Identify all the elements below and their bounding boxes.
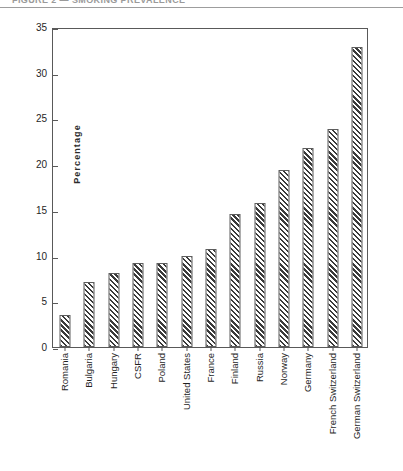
bar-slot <box>126 29 150 347</box>
x-axis-tick-label: Poland <box>149 353 173 468</box>
y-axis-tick-label: 15 <box>36 205 47 216</box>
x-axis-tick-mark <box>113 347 114 351</box>
x-axis-tick-mark <box>210 347 211 351</box>
bar[interactable] <box>60 315 71 347</box>
y-axis-tick-label: 30 <box>36 68 47 79</box>
x-axis-tick-label: French Switzerland <box>319 353 343 468</box>
bar-slot <box>223 29 247 347</box>
bar[interactable] <box>84 282 95 347</box>
x-axis-tick-label-text: Germany <box>302 353 313 392</box>
x-axis-tick-mark <box>259 347 260 351</box>
x-axis-tick-label-text: France <box>204 353 215 383</box>
x-axis-tick-label-text: Romania <box>59 353 70 391</box>
bar-slot <box>53 29 77 347</box>
x-axis-tick-mark <box>283 347 284 351</box>
x-axis-tick-label-text: Russia <box>253 353 264 382</box>
bar-slot <box>320 29 344 347</box>
bar-slot <box>175 29 199 347</box>
plot-area: Percentage 35302520151050 <box>52 28 368 348</box>
x-axis-tick-mark <box>162 347 163 351</box>
bar[interactable] <box>327 129 338 348</box>
bar-chart: Percentage 35302520151050 RomaniaBulgari… <box>0 0 403 471</box>
bar[interactable] <box>181 256 192 347</box>
x-axis-tick-label: Russia <box>246 353 270 468</box>
x-axis-tick-label: France <box>198 353 222 468</box>
x-axis-tick-label-text: Norway <box>277 353 288 385</box>
x-axis-tick-label: Hungary <box>101 353 125 468</box>
x-axis-tick-label: United States <box>174 353 198 468</box>
bar-slot <box>247 29 271 347</box>
bar-slot <box>272 29 296 347</box>
x-axis-tick-label-text: CSFR <box>132 353 143 379</box>
x-axis-tick-label: Bulgaria <box>76 353 100 468</box>
x-axis-tick-label-text: Finland <box>229 353 240 384</box>
y-axis-tick-label: 10 <box>36 251 47 262</box>
x-axis-tick-label: Romania <box>52 353 76 468</box>
y-axis-tick-label: 35 <box>36 22 47 33</box>
bar-slot <box>345 29 369 347</box>
x-axis-tick-label-text: Poland <box>156 353 167 383</box>
x-axis-tick-label: Germany <box>295 353 319 468</box>
x-axis-tick-label: CSFR <box>125 353 149 468</box>
x-axis-tick-mark <box>356 347 357 351</box>
bar[interactable] <box>351 47 362 347</box>
x-axis-tick-mark <box>65 347 66 351</box>
bar-slot <box>102 29 126 347</box>
x-axis-tick-label: Finland <box>222 353 246 468</box>
x-axis-tick-mark <box>308 347 309 351</box>
bars-layer <box>53 29 367 347</box>
x-axis-tick-label-text: Bulgaria <box>83 353 94 388</box>
y-axis-tick-label: 0 <box>41 342 47 353</box>
bar[interactable] <box>303 148 314 347</box>
bar[interactable] <box>108 273 119 347</box>
bar-slot <box>296 29 320 347</box>
y-axis-tick-label: 5 <box>41 296 47 307</box>
bar[interactable] <box>278 170 289 347</box>
y-axis-tick-label: 25 <box>36 113 47 124</box>
bar-slot <box>77 29 101 347</box>
bar[interactable] <box>205 249 216 347</box>
x-axis-tick-label-text: Hungary <box>107 353 118 389</box>
bar[interactable] <box>133 263 144 347</box>
x-axis-tick-label: German Switzerland <box>344 353 368 468</box>
x-axis-tick-mark <box>89 347 90 351</box>
x-axis-tick-label-text: French Switzerland <box>326 353 337 434</box>
x-axis-tick-label-text: German Switzerland <box>350 353 361 439</box>
x-axis-tick-label: Norway <box>271 353 295 468</box>
bar-slot <box>150 29 174 347</box>
x-axis-tick-mark <box>235 347 236 351</box>
bar[interactable] <box>157 263 168 347</box>
x-axis-tick-mark <box>186 347 187 351</box>
y-axis-tick-label: 20 <box>36 159 47 170</box>
x-axis-labels: RomaniaBulgariaHungaryCSFRPolandUnited S… <box>52 353 368 471</box>
bar[interactable] <box>230 214 241 347</box>
bar[interactable] <box>254 203 265 347</box>
x-axis-tick-label-text: United States <box>180 353 191 410</box>
x-axis-tick-mark <box>138 347 139 351</box>
y-axis-tick-mark <box>53 349 58 350</box>
bar-slot <box>199 29 223 347</box>
x-axis-tick-mark <box>332 347 333 351</box>
